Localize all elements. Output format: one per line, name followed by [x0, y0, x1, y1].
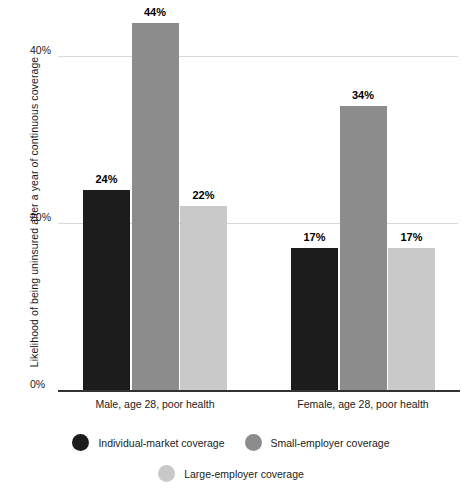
legend-label-individual-market: Individual-market coverage	[98, 437, 224, 449]
plot-area: 24%44%22%17%34%17%	[58, 6, 458, 392]
y-tick-label-40: 40%	[30, 44, 51, 56]
gridline-40	[58, 56, 458, 57]
legend-swatch-small-employer-icon	[245, 434, 262, 451]
bar-g0-s0[interactable]	[83, 190, 130, 390]
bar-value-label-g0-s0: 24%	[83, 173, 130, 185]
legend-label-large-employer: Large-employer coverage	[184, 468, 304, 480]
bar-g1-s2[interactable]	[388, 248, 435, 390]
legend-label-small-employer: Small-employer coverage	[271, 437, 390, 449]
bar-g0-s2[interactable]	[180, 206, 227, 390]
bar-g1-s0[interactable]	[291, 248, 338, 390]
legend-item-small-employer[interactable]: Small-employer coverage	[245, 434, 390, 451]
legend-swatch-individual-market-icon	[72, 434, 89, 451]
bar-value-label-g0-s1: 44%	[132, 6, 179, 18]
bar-g1-s1[interactable]	[340, 106, 387, 390]
legend-swatch-large-employer-icon	[158, 465, 175, 482]
y-tick-label-0: 0%	[30, 378, 45, 390]
bar-value-label-g0-s2: 22%	[180, 189, 227, 201]
bar-value-label-g1-s1: 34%	[340, 89, 387, 101]
bar-g0-s1[interactable]	[132, 23, 179, 390]
chart-legend: Individual-market coverage Small-employe…	[0, 428, 462, 482]
bar-value-label-g1-s0: 17%	[291, 231, 338, 243]
x-category-label-female: Female, age 28, poor health	[213, 398, 462, 410]
bar-chart: Likelihood of being uninsured after a ye…	[0, 0, 462, 489]
y-tick-label-20: 20%	[30, 211, 51, 223]
legend-item-individual-market[interactable]: Individual-market coverage	[72, 434, 224, 451]
bar-value-label-g1-s2: 17%	[388, 231, 435, 243]
x-axis-line	[58, 390, 460, 392]
legend-item-large-employer[interactable]: Large-employer coverage	[158, 465, 304, 482]
